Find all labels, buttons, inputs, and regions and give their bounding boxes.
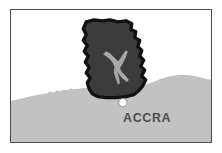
city-label-accra: ACCRA xyxy=(123,112,171,125)
map-canvas xyxy=(11,10,211,142)
locator-map-figure: ACCRA xyxy=(0,0,222,153)
capital-marker-accra xyxy=(119,98,127,106)
map-frame: ACCRA xyxy=(10,9,212,143)
